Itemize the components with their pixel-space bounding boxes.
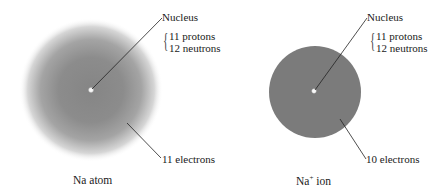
atom-protons-label: 11 protons — [169, 30, 215, 42]
ion-protons-label: 11 protons — [376, 30, 422, 42]
ion-electrons-label: 10 electrons — [366, 153, 419, 165]
atom-composition-brace: { — [163, 29, 168, 51]
ion-composition-brace: { — [370, 29, 375, 51]
ion-nucleus-label: Nucleus — [367, 11, 403, 23]
na-ion — [269, 18, 367, 159]
atom-nucleus-label: Nucleus — [162, 11, 198, 23]
atom-neutrons-label: 12 neutrons — [169, 42, 221, 54]
ion-electron-leader-line — [340, 119, 366, 159]
ion-neutrons-label: 12 neutrons — [376, 42, 428, 54]
atom-electrons-label: 11 electrons — [162, 153, 215, 165]
na-atom — [19, 18, 163, 162]
ion-caption: Na+ ion — [296, 174, 331, 187]
ion-caption-element: Na — [296, 175, 309, 187]
ion-caption-suffix: ion — [313, 175, 331, 187]
atom-caption: Na atom — [73, 174, 112, 186]
